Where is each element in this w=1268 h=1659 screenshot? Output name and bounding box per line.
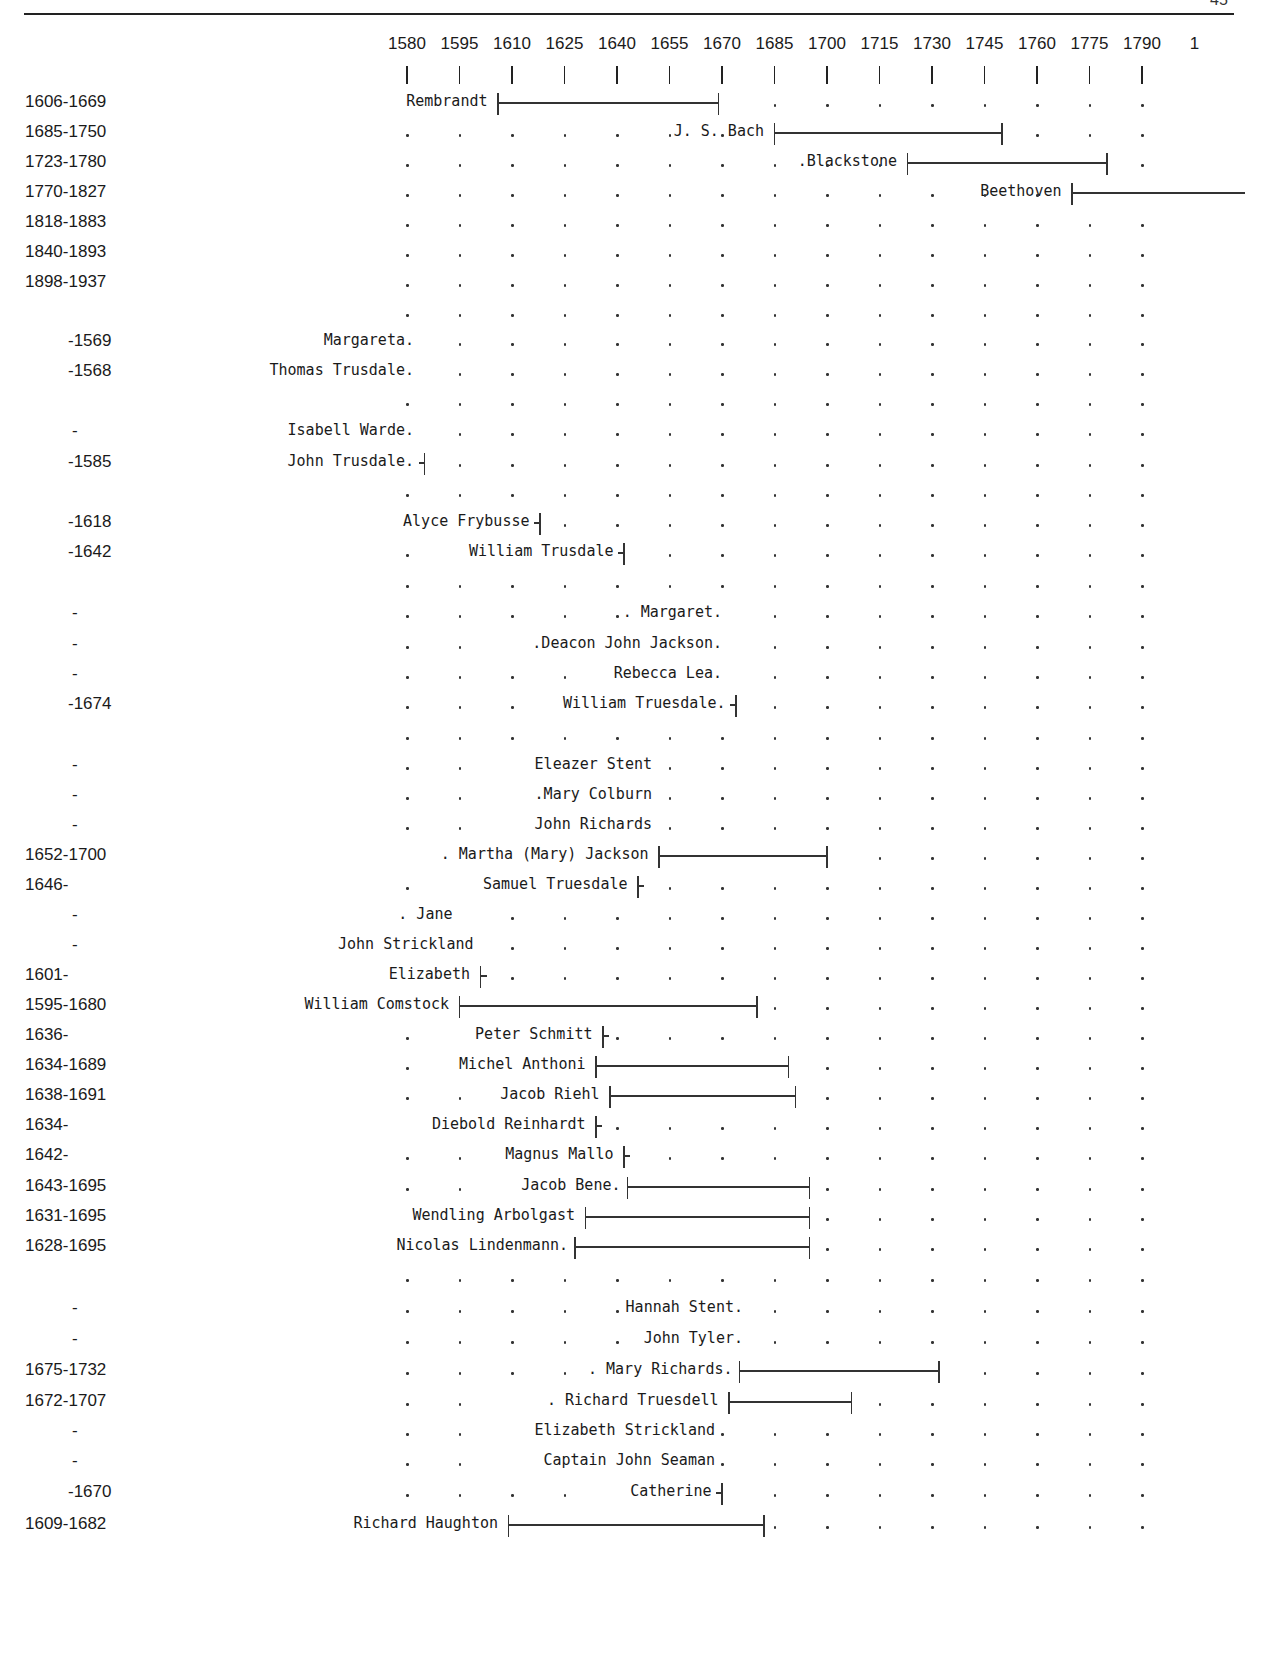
grid-dot [774, 615, 777, 618]
grid-dot [879, 1494, 882, 1497]
grid-dot [669, 554, 672, 557]
grid-dot [1089, 1310, 1092, 1313]
grid-dot [931, 917, 934, 920]
lifespan-stub [596, 1125, 602, 1127]
birth-cap [1071, 183, 1073, 205]
grid-dot [879, 1463, 882, 1466]
grid-dot [931, 887, 934, 890]
person-name: Michel Anthoni [459, 1055, 585, 1073]
grid-dot [1036, 284, 1039, 287]
person-name: .Blackstone [798, 152, 897, 170]
grid-dot [406, 1463, 409, 1466]
grid-dot [459, 1279, 462, 1282]
grid-dot [931, 343, 934, 346]
lifespan-years: - [72, 421, 78, 441]
grid-dot [511, 615, 514, 618]
birth-cap [627, 1177, 629, 1199]
book-page: 45 1580159516101625164016551670168517001… [0, 0, 1268, 1659]
grid-dot [826, 314, 829, 317]
axis-tick-label: 1775 [1071, 34, 1109, 54]
grid-dot [1036, 1403, 1039, 1406]
lifespan-years: - [72, 1451, 78, 1471]
grid-dot [879, 194, 882, 197]
grid-dot [669, 797, 672, 800]
lifespan-years: 1609-1682 [25, 1514, 106, 1534]
grid-dot [721, 194, 724, 197]
person-name: Peter Schmitt [475, 1025, 592, 1043]
grid-dot [721, 554, 724, 557]
grid-dot [406, 706, 409, 709]
death-cap [1001, 123, 1003, 145]
grid-dot [826, 194, 829, 197]
grid-dot [774, 1157, 777, 1160]
grid-dot [669, 373, 672, 376]
grid-dot [511, 1494, 514, 1497]
grid-dot [879, 676, 882, 679]
grid-dot [669, 827, 672, 830]
birth-cap [585, 1207, 587, 1229]
lifespan-bar [460, 1005, 758, 1007]
grid-dot [406, 1067, 409, 1070]
grid-dot [1036, 494, 1039, 497]
grid-dot [564, 615, 567, 618]
death-cap [851, 1392, 853, 1414]
grid-dot [459, 797, 462, 800]
grid-dot [984, 585, 987, 588]
grid-dot [511, 403, 514, 406]
axis-tick-label: 1 [1190, 34, 1199, 54]
grid-dot [774, 494, 777, 497]
grid-dot [879, 524, 882, 527]
lifespan-years: 1636- [25, 1025, 68, 1045]
grid-dot [1089, 284, 1092, 287]
grid-dot [459, 1310, 462, 1313]
lifespan-bar [498, 102, 719, 104]
grid-dot [879, 917, 882, 920]
grid-dot [931, 1248, 934, 1251]
grid-dot [931, 284, 934, 287]
grid-dot [1089, 1403, 1092, 1406]
death-cap [718, 93, 720, 115]
grid-dot [1141, 464, 1144, 467]
person-name: Nicolas Lindenmann. [396, 1236, 568, 1254]
grid-dot [721, 1037, 724, 1040]
grid-dot [1141, 1097, 1144, 1100]
grid-dot [721, 737, 724, 740]
grid-dot [459, 224, 462, 227]
grid-dot [1089, 1341, 1092, 1344]
grid-dot [1036, 134, 1039, 137]
grid-dot [1036, 1526, 1039, 1529]
grid-dot [984, 194, 987, 197]
grid-dot [1141, 314, 1144, 317]
grid-dot [826, 977, 829, 980]
grid-dot [1141, 887, 1144, 890]
grid-dot [406, 1433, 409, 1436]
grid-dot [931, 494, 934, 497]
lifespan-years: - [72, 905, 78, 925]
grid-dot [406, 1157, 409, 1160]
grid-dot [511, 585, 514, 588]
grid-dot [1036, 797, 1039, 800]
grid-dot [1036, 1097, 1039, 1100]
grid-dot [511, 737, 514, 740]
grid-dot [459, 1433, 462, 1436]
grid-dot [1036, 947, 1039, 950]
grid-dot [984, 343, 987, 346]
grid-dot [1141, 254, 1144, 257]
birth-cap [459, 996, 461, 1018]
grid-dot [1089, 1279, 1092, 1282]
grid-dot [879, 646, 882, 649]
grid-dot [459, 1157, 462, 1160]
grid-dot [406, 254, 409, 257]
grid-dot [1141, 164, 1144, 167]
lifespan-years: 1634-1689 [25, 1055, 106, 1075]
lifespan-bar [729, 1401, 852, 1403]
grid-dot [406, 1097, 409, 1100]
birth-cap [658, 846, 660, 868]
grid-dot [1089, 1157, 1092, 1160]
grid-dot [826, 767, 829, 770]
grid-dot [1089, 403, 1092, 406]
death-cap [721, 1483, 723, 1505]
grid-dot [826, 373, 829, 376]
birth-cap [623, 1146, 625, 1168]
grid-dot [721, 947, 724, 950]
